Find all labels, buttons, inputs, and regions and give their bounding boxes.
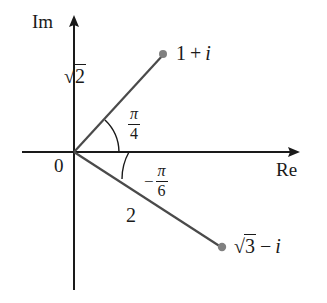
angle-arc-minus-pi-over-6: [122, 152, 129, 179]
point-label-sqrt3-minus-i: √3−i: [234, 236, 281, 256]
complex-plane-diagram: Im Re 0 1+i √2 π 4 − π 6 2 √3−i: [0, 0, 327, 303]
real-axis-label: Re: [276, 160, 297, 179]
point-label-imaginary-unit: i: [275, 235, 281, 257]
point-label-operator: −: [260, 235, 271, 257]
magnitude-label-sqrt2: √2: [64, 66, 86, 86]
fraction-denominator: 6: [156, 183, 168, 200]
point-label-1-plus-i: 1+i: [176, 43, 211, 63]
radical-sqrt2: √2: [64, 66, 86, 86]
angle-arc-pi-over-4: [105, 120, 119, 152]
point-marker-sqrt3-minus-i: [218, 243, 226, 251]
imaginary-axis-label: Im: [32, 12, 53, 31]
fraction-numerator: π: [128, 106, 140, 123]
diagram-canvas: [0, 0, 327, 303]
fraction-numerator: π: [156, 163, 168, 180]
radicand-value: 3: [244, 234, 256, 257]
origin-label: 0: [54, 156, 64, 175]
magnitude-label-2: 2: [126, 205, 136, 225]
point-marker-1-plus-i: [159, 50, 167, 58]
fraction-denominator: 4: [128, 126, 140, 143]
fraction-pi-over-6: π 6: [156, 163, 168, 200]
radicand-value: 2: [74, 64, 86, 87]
point-label-imaginary-unit: i: [205, 42, 211, 64]
radical-sqrt3: √3: [234, 236, 256, 256]
angle-label-minus-pi-over-6: − π 6: [144, 163, 168, 200]
fraction-pi-over-4: π 4: [128, 106, 140, 143]
point-label-operator: +: [190, 42, 201, 64]
angle-minus-sign: −: [144, 173, 154, 190]
point-label-real-part: 1: [176, 42, 186, 64]
angle-label-pi-over-4: π 4: [128, 106, 140, 143]
vector-ray-1-plus-i: [74, 55, 163, 152]
